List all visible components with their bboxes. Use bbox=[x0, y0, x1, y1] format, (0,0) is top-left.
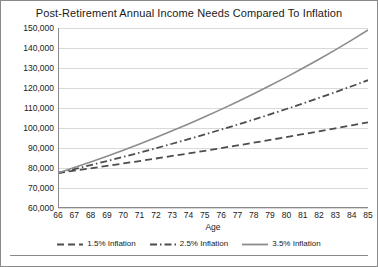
x-tick-label: 82 bbox=[314, 210, 323, 220]
x-tick-label: 80 bbox=[282, 210, 291, 220]
chart-legend: 1.5% Inflation2.5% Inflation3.5% Inflati… bbox=[1, 240, 377, 248]
y-tick-label: 150,000 bbox=[23, 23, 54, 33]
y-tick-label: 70,000 bbox=[28, 183, 54, 193]
y-tick-label: 60,000 bbox=[28, 203, 54, 213]
legend-item[interactable]: 1.5% Inflation bbox=[57, 240, 135, 248]
legend-label: 3.5% Inflation bbox=[272, 240, 320, 248]
x-tick-label: 79 bbox=[265, 210, 274, 220]
x-tick-label: 69 bbox=[102, 210, 111, 220]
x-tick-label: 71 bbox=[135, 210, 144, 220]
y-tick-label: 80,000 bbox=[28, 163, 54, 173]
y-tick-label: 110,000 bbox=[24, 103, 54, 113]
x-tick-label: 78 bbox=[249, 210, 258, 220]
x-axis-line bbox=[58, 207, 368, 208]
x-tick-label: 74 bbox=[184, 210, 193, 220]
legend-label: 2.5% Inflation bbox=[180, 240, 228, 248]
y-axis-tick-labels: 150,000140,000130,000120,000110,000100,0… bbox=[1, 28, 54, 208]
legend-item[interactable]: 2.5% Inflation bbox=[150, 240, 228, 248]
y-tick-label: 130,000 bbox=[23, 63, 54, 73]
y-tick-label: 120,000 bbox=[23, 83, 54, 93]
x-tick-label: 84 bbox=[347, 210, 356, 220]
series-layer bbox=[58, 28, 368, 208]
x-tick-label: 85 bbox=[363, 210, 372, 220]
x-tick-label: 76 bbox=[216, 210, 225, 220]
x-axis-tick-labels: 6667686970717273747576777879808182838485 bbox=[58, 210, 368, 222]
x-tick-label: 77 bbox=[233, 210, 242, 220]
x-axis-title: Age bbox=[58, 222, 368, 232]
x-tick-label: 66 bbox=[53, 210, 62, 220]
y-tick-label: 140,000 bbox=[23, 43, 54, 53]
x-tick-label: 75 bbox=[200, 210, 209, 220]
chart-container: Post-Retirement Annual Income Needs Comp… bbox=[0, 0, 378, 267]
x-tick-label: 72 bbox=[151, 210, 160, 220]
series-line bbox=[58, 122, 368, 173]
legend-separator bbox=[10, 255, 368, 256]
gridline bbox=[58, 208, 368, 209]
plot-area bbox=[58, 28, 368, 208]
x-tick-label: 73 bbox=[167, 210, 176, 220]
x-tick-label: 81 bbox=[298, 210, 307, 220]
chart-title: Post-Retirement Annual Income Needs Comp… bbox=[1, 7, 377, 19]
y-axis-line bbox=[58, 28, 59, 208]
x-tick-label: 68 bbox=[86, 210, 95, 220]
legend-item[interactable]: 3.5% Inflation bbox=[242, 240, 320, 248]
y-tick-label: 100,000 bbox=[23, 123, 54, 133]
legend-swatch bbox=[57, 241, 83, 248]
x-tick-label: 67 bbox=[70, 210, 79, 220]
y-tick-label: 90,000 bbox=[28, 143, 54, 153]
legend-swatch bbox=[150, 241, 176, 248]
legend-label: 1.5% Inflation bbox=[87, 240, 135, 248]
x-tick-label: 83 bbox=[331, 210, 340, 220]
series-line bbox=[58, 80, 368, 173]
x-tick-label: 70 bbox=[119, 210, 128, 220]
series-line bbox=[58, 30, 368, 173]
legend-swatch bbox=[242, 241, 268, 248]
